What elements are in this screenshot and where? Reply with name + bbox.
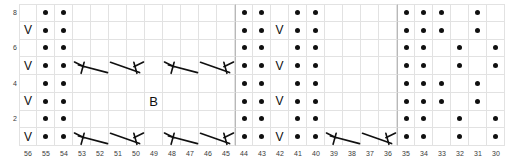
- chart-cell: [487, 93, 505, 111]
- purl-dot-icon: [307, 93, 324, 110]
- dot-glyph: [242, 99, 247, 104]
- chart-cell: [235, 128, 253, 146]
- column-tick-label: 51: [109, 150, 127, 157]
- chart-cell: [19, 40, 37, 58]
- purl-dot-icon: [415, 128, 432, 145]
- chart-cell: [109, 93, 127, 111]
- chart-cell: [433, 22, 451, 40]
- chart-cell: [217, 75, 235, 93]
- chart-cell: [217, 4, 235, 22]
- chart-cell: [487, 111, 505, 129]
- chart-cell: V: [19, 128, 37, 146]
- purl-dot-icon: [37, 22, 54, 39]
- dot-glyph: [404, 134, 409, 139]
- chart-cell: [91, 128, 109, 146]
- chart-cell: [145, 75, 163, 93]
- slip-stitch-vee-icon: V: [20, 128, 36, 145]
- dot-glyph: [421, 99, 426, 104]
- dot-glyph: [242, 134, 247, 139]
- chart-cell: [217, 111, 235, 129]
- chart-cell: [73, 128, 91, 146]
- row-tick-label: 8: [1, 9, 17, 16]
- chart-cell: [127, 4, 145, 22]
- purl-dot-icon: [398, 75, 414, 92]
- dot-glyph: [259, 28, 264, 33]
- dot-glyph: [259, 45, 264, 50]
- row-tick-label: 4: [1, 80, 17, 87]
- chart-cell: [451, 93, 469, 111]
- chart-cell: [289, 93, 307, 111]
- purl-dot-icon: [415, 22, 432, 39]
- chart-cell: [235, 4, 253, 22]
- chart-cell: [307, 22, 325, 40]
- chart-cell: [415, 22, 433, 40]
- purl-dot-icon: [55, 57, 72, 74]
- chart-cell: [235, 22, 253, 40]
- purl-dot-icon: [289, 40, 306, 57]
- chart-cell: [433, 57, 451, 75]
- chart-cell: [487, 22, 505, 40]
- chart-cell: [451, 22, 469, 40]
- dot-glyph: [439, 81, 444, 86]
- chart-cell: [109, 4, 127, 22]
- column-tick-label: 36: [379, 150, 397, 157]
- chart-cell: [235, 93, 253, 111]
- chart-cell: [307, 128, 325, 146]
- dot-glyph: [404, 45, 409, 50]
- chart-cell: [109, 40, 127, 58]
- purl-dot-icon: [55, 111, 72, 128]
- chart-cell: [181, 57, 199, 75]
- purl-dot-icon: [236, 5, 252, 21]
- chart-cell: [397, 93, 415, 111]
- chart-cell: [73, 40, 91, 58]
- chart-cell: [235, 75, 253, 93]
- dot-glyph: [61, 81, 66, 86]
- purl-dot-icon: [236, 111, 252, 128]
- purl-dot-icon: [289, 93, 306, 110]
- row-tick-label: 6: [1, 44, 17, 51]
- purl-dot-icon: [289, 128, 306, 145]
- chart-cell: [343, 40, 361, 58]
- purl-dot-icon: [253, 5, 270, 21]
- column-tick-label: 49: [145, 150, 163, 157]
- chart-cell: [271, 40, 289, 58]
- chart-cell: [253, 128, 271, 146]
- purl-dot-icon: [253, 22, 270, 39]
- purl-dot-icon: [236, 22, 252, 39]
- chart-cell: [487, 57, 505, 75]
- chart-cell: [253, 22, 271, 40]
- purl-dot-icon: [37, 75, 54, 92]
- dot-glyph: [61, 28, 66, 33]
- chart-cell: [91, 57, 109, 75]
- chart-cell: [361, 93, 379, 111]
- chart-grid: VVVVVBVVV: [19, 4, 505, 146]
- purl-dot-icon: [415, 40, 432, 57]
- dot-glyph: [259, 116, 264, 121]
- chart-cell: [469, 57, 487, 75]
- chart-cell: [469, 22, 487, 40]
- chart-cell: [181, 75, 199, 93]
- chart-cell: [163, 111, 181, 129]
- chart-cell: [199, 57, 217, 75]
- chart-cell: [235, 40, 253, 58]
- dot-glyph: [43, 63, 48, 68]
- purl-dot-icon: [415, 57, 432, 74]
- purl-dot-icon: [55, 93, 72, 110]
- chart-cell: [469, 75, 487, 93]
- purl-dot-icon: [289, 111, 306, 128]
- chart-cell: [199, 93, 217, 111]
- chart-cell: [307, 93, 325, 111]
- dot-glyph: [475, 28, 480, 33]
- chart-cell: [469, 4, 487, 22]
- chart-cell: [55, 40, 73, 58]
- purl-dot-icon: [236, 40, 252, 57]
- chart-cell: [325, 93, 343, 111]
- dot-glyph: [61, 45, 66, 50]
- dot-glyph: [404, 10, 409, 15]
- chart-cell: [289, 75, 307, 93]
- chart-cell: [163, 128, 181, 146]
- vee-glyph: V: [275, 59, 283, 71]
- chart-cell: [55, 93, 73, 111]
- dot-glyph: [295, 134, 300, 139]
- dot-glyph: [439, 10, 444, 15]
